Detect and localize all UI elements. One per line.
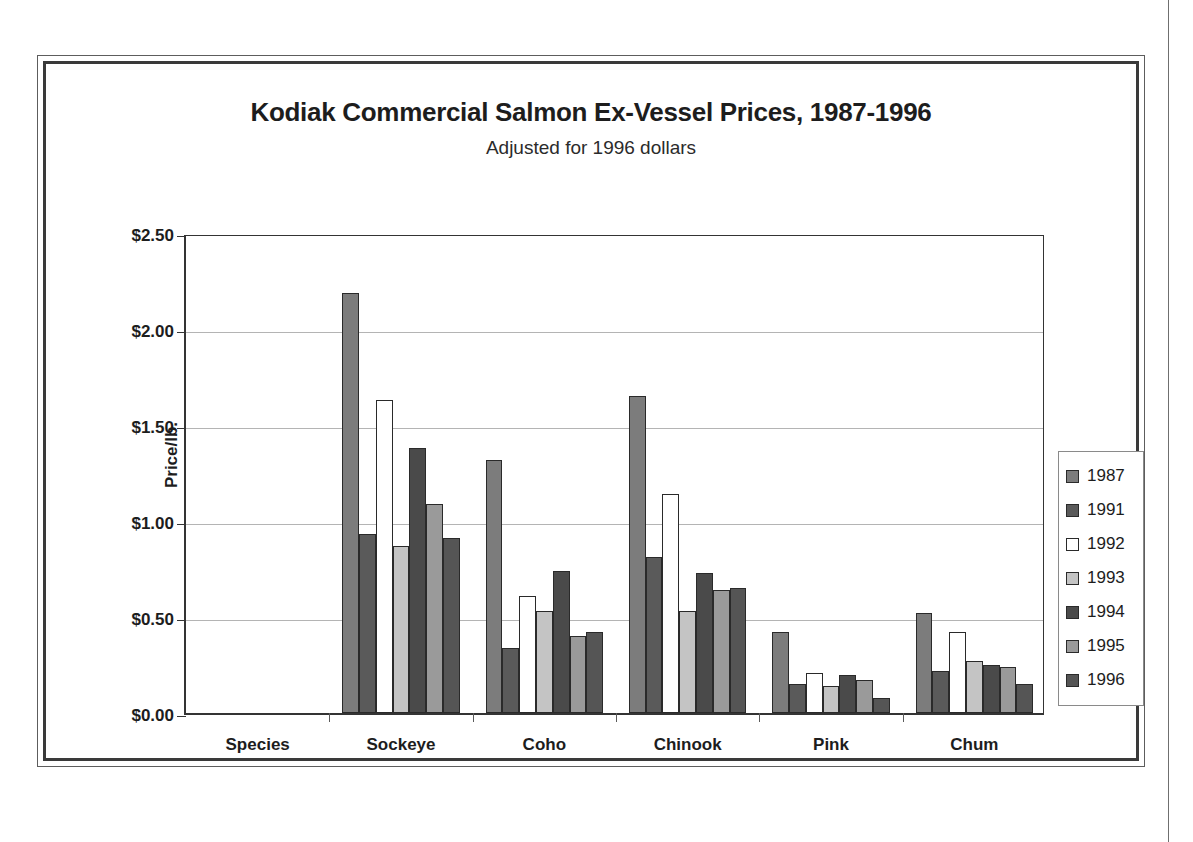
bar-chum-1987 xyxy=(916,613,933,713)
x-tick-mark xyxy=(616,713,617,722)
bar-chum-1992 xyxy=(949,632,966,713)
x-category-label-coho: Coho xyxy=(523,735,566,755)
chart-title: Kodiak Commercial Salmon Ex-Vessel Price… xyxy=(46,97,1136,128)
plot-area: $2.50$2.00$1.50$1.00$0.50$0.00 SpeciesSo… xyxy=(184,235,1044,715)
page-edge-rule xyxy=(1168,0,1169,842)
legend-item-1996[interactable]: 1996 xyxy=(1066,663,1137,697)
x-category-label-pink: Pink xyxy=(813,735,849,755)
y-tick-mark xyxy=(177,236,186,237)
bar-sockeye-1992 xyxy=(376,400,393,713)
x-tick-mark xyxy=(329,713,330,722)
legend-label: 1987 xyxy=(1087,466,1125,486)
legend-label: 1993 xyxy=(1087,568,1125,588)
legend-item-1995[interactable]: 1995 xyxy=(1066,629,1137,663)
y-tick-mark xyxy=(177,716,186,717)
y-tick-label: $1.50 xyxy=(131,418,174,438)
bar-chum-1996 xyxy=(1016,684,1033,713)
bar-chinook-1992 xyxy=(662,494,679,713)
bar-sockeye-1996 xyxy=(443,538,460,713)
bar-chinook-1994 xyxy=(696,573,713,713)
bar-sockeye-1987 xyxy=(342,293,359,713)
gridline xyxy=(186,620,1043,621)
legend-item-1991[interactable]: 1991 xyxy=(1066,493,1137,527)
bar-pink-1987 xyxy=(772,632,789,713)
x-tick-mark xyxy=(903,713,904,722)
legend-swatch-icon xyxy=(1066,538,1079,551)
bar-coho-1996 xyxy=(586,632,603,713)
bar-sockeye-1993 xyxy=(393,546,410,713)
legend-item-1992[interactable]: 1992 xyxy=(1066,527,1137,561)
legend-label: 1994 xyxy=(1087,602,1125,622)
bar-coho-1994 xyxy=(553,571,570,713)
bar-chinook-1991 xyxy=(646,557,663,713)
bar-pink-1993 xyxy=(823,686,840,713)
legend-swatch-icon xyxy=(1066,470,1079,483)
bar-chum-1993 xyxy=(966,661,983,713)
legend-swatch-icon xyxy=(1066,504,1079,517)
bar-sockeye-1991 xyxy=(359,534,376,713)
bar-coho-1991 xyxy=(502,648,519,713)
x-tick-mark xyxy=(759,713,760,722)
bar-coho-1992 xyxy=(519,596,536,713)
legend-swatch-icon xyxy=(1066,606,1079,619)
chart-subtitle: Adjusted for 1996 dollars xyxy=(46,137,1136,159)
y-tick-mark xyxy=(177,332,186,333)
bar-pink-1992 xyxy=(806,673,823,713)
y-tick-mark xyxy=(177,524,186,525)
bar-sockeye-1995 xyxy=(426,504,443,713)
chart-outer-frame: Kodiak Commercial Salmon Ex-Vessel Price… xyxy=(37,55,1145,767)
y-tick-label: $2.00 xyxy=(131,322,174,342)
legend-swatch-icon xyxy=(1066,674,1079,687)
bar-chum-1994 xyxy=(983,665,1000,713)
legend-label: 1992 xyxy=(1087,534,1125,554)
y-tick-mark xyxy=(177,620,186,621)
x-category-label-chinook: Chinook xyxy=(654,735,722,755)
legend-label: 1996 xyxy=(1087,670,1125,690)
bar-pink-1991 xyxy=(789,684,806,713)
legend-swatch-icon xyxy=(1066,572,1079,585)
y-tick-label: $0.50 xyxy=(131,610,174,630)
bar-chinook-1987 xyxy=(629,396,646,713)
gridline xyxy=(186,524,1043,525)
y-tick-label: $1.00 xyxy=(131,514,174,534)
bar-chum-1995 xyxy=(1000,667,1017,713)
bar-sockeye-1994 xyxy=(409,448,426,713)
bar-pink-1995 xyxy=(856,680,873,713)
chart-legend: 1987199119921993199419951996 xyxy=(1058,451,1144,706)
x-tick-mark xyxy=(473,713,474,722)
bar-chinook-1993 xyxy=(679,611,696,713)
y-tick-label: $0.00 xyxy=(131,706,174,726)
bar-chinook-1995 xyxy=(713,590,730,713)
gridline xyxy=(186,428,1043,429)
legend-item-1987[interactable]: 1987 xyxy=(1066,459,1137,493)
x-category-label-sockeye: Sockeye xyxy=(367,735,436,755)
bar-pink-1994 xyxy=(839,675,856,713)
legend-item-1994[interactable]: 1994 xyxy=(1066,595,1137,629)
legend-swatch-icon xyxy=(1066,640,1079,653)
legend-label: 1991 xyxy=(1087,500,1125,520)
bar-coho-1995 xyxy=(570,636,587,713)
bar-chinook-1996 xyxy=(730,588,747,713)
legend-item-1993[interactable]: 1993 xyxy=(1066,561,1137,595)
legend-label: 1995 xyxy=(1087,636,1125,656)
x-category-label-chum: Chum xyxy=(950,735,998,755)
bar-chum-1991 xyxy=(932,671,949,713)
y-axis-title: Price/lb. xyxy=(162,375,182,535)
bar-coho-1993 xyxy=(536,611,553,713)
y-tick-mark xyxy=(177,428,186,429)
bar-pink-1996 xyxy=(873,698,890,713)
bar-coho-1987 xyxy=(486,460,503,713)
plot-wrapper: Price/lb. $2.50$2.00$1.50$1.00$0.50$0.00… xyxy=(184,235,1044,715)
chart-inner-frame: Kodiak Commercial Salmon Ex-Vessel Price… xyxy=(43,61,1139,761)
y-tick-label: $2.50 xyxy=(131,226,174,246)
x-category-label-species: Species xyxy=(226,735,290,755)
gridline xyxy=(186,332,1043,333)
